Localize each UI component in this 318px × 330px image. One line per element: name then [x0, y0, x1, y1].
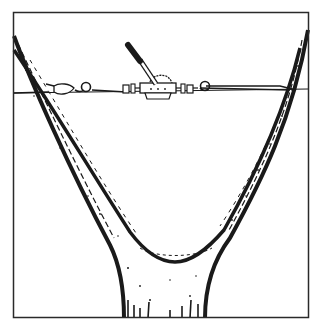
- left-hook: [75, 83, 91, 92]
- cable-assembly: [14, 45, 308, 99]
- winch-left-collar-2: [131, 84, 135, 93]
- tree-cabling-illustration: [0, 0, 318, 330]
- winch-right-collar: [181, 84, 185, 93]
- winch-left-collar: [123, 85, 129, 93]
- tree: [14, 30, 308, 318]
- bark-line: [220, 70, 294, 226]
- winch-lower-housing: [145, 93, 171, 99]
- left-limb-outer-edge: [14, 36, 124, 318]
- winch-right-collar-2: [187, 85, 193, 93]
- bark-line: [30, 60, 138, 236]
- winch-body: [140, 83, 176, 93]
- right-limb-inner-edge: [175, 48, 300, 262]
- come-along-winch: [123, 75, 193, 99]
- winch-handle: [128, 45, 156, 84]
